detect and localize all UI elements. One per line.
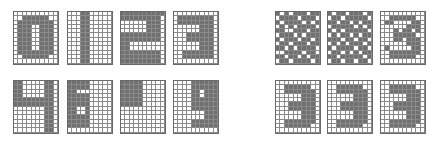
digit-bitmap-grid (327, 80, 373, 134)
digit-bitmap-grid (275, 80, 321, 134)
digit-bitmap-grid (13, 80, 59, 134)
bitmap-cell (421, 128, 425, 132)
bitmap-cell (316, 128, 320, 132)
right-panel-noisy-digits (260, 0, 438, 144)
bitmap-cell (54, 59, 58, 63)
bitmap-cell (108, 128, 112, 132)
digit-bitmap-grid (120, 11, 166, 65)
bitmap-cell (161, 59, 165, 63)
bitmap-cell (421, 59, 425, 63)
bitmap-cell (214, 59, 218, 63)
digit-bitmap-grid (173, 11, 219, 65)
digit-bitmap-grid (120, 80, 166, 134)
digit-bitmap-grid (173, 80, 219, 134)
left-panel-clean-digits (0, 0, 240, 144)
bitmap-cell (108, 59, 112, 63)
digit-bitmap-grid (275, 11, 321, 65)
bitmap-cell (368, 59, 372, 63)
bitmap-cell (214, 128, 218, 132)
bitmap-cell (161, 128, 165, 132)
digit-bitmap-grid (327, 11, 373, 65)
digit-bitmap-grid (67, 11, 113, 65)
digit-bitmap-grid (380, 80, 426, 134)
digit-bitmap-grid (380, 11, 426, 65)
digit-bitmap-grid (13, 11, 59, 65)
bitmap-cell (54, 128, 58, 132)
bitmap-cell (316, 59, 320, 63)
bitmap-cell (368, 128, 372, 132)
digit-bitmap-grid (67, 80, 113, 134)
